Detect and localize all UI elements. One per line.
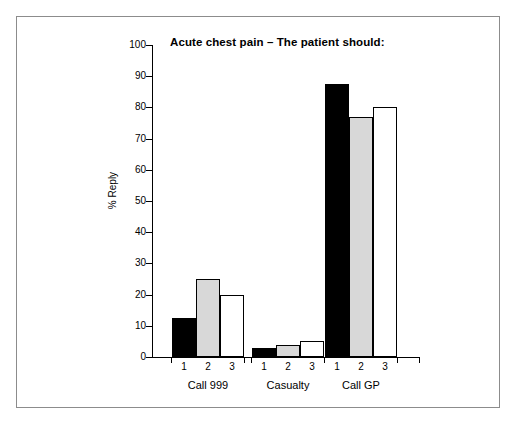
y-axis-tick	[146, 201, 152, 202]
bar-call-gp-1	[325, 84, 349, 357]
y-axis-tick	[146, 263, 152, 264]
y-axis-tick-label: 30	[106, 258, 146, 268]
bar-index-label: 1	[172, 362, 196, 372]
y-axis-title: % Reply	[107, 172, 118, 209]
y-axis-tick	[146, 45, 152, 46]
y-axis-tick	[146, 357, 152, 358]
y-axis-tick	[146, 295, 152, 296]
bar-index-label: 3	[300, 362, 324, 372]
plot-area: 0102030405060708090100 % Reply 123Call 9…	[0, 0, 517, 426]
y-axis-tick-label: 0	[106, 352, 146, 362]
y-axis-tick-label: 10	[106, 321, 146, 331]
bar-casualty-3	[300, 341, 324, 357]
bar-index-label: 2	[349, 362, 373, 372]
y-axis-tick	[146, 76, 152, 77]
y-axis-tick	[146, 232, 152, 233]
y-axis-tick	[146, 139, 152, 140]
group-label-call-gp: Call GP	[306, 380, 416, 391]
bar-call-gp-2	[349, 117, 373, 357]
y-axis-tick-label: 20	[106, 290, 146, 300]
bar-call-999-2	[196, 279, 220, 357]
y-axis-tick-label: 70	[106, 134, 146, 144]
bar-call-999-1	[172, 318, 196, 357]
x-axis-tick	[419, 357, 420, 363]
y-axis-tick-label: 40	[106, 227, 146, 237]
bar-casualty-2	[276, 345, 300, 357]
bar-call-gp-3	[373, 107, 397, 357]
bar-index-label: 1	[325, 362, 349, 372]
bar-call-999-3	[220, 295, 244, 357]
y-axis-tick	[146, 170, 152, 171]
y-axis-line	[152, 45, 153, 358]
bar-index-label: 1	[252, 362, 276, 372]
bar-casualty-1	[252, 348, 276, 357]
x-axis-line	[152, 357, 420, 358]
bar-index-label: 2	[196, 362, 220, 372]
y-axis-tick-label: 100	[106, 40, 146, 50]
bar-index-label: 3	[373, 362, 397, 372]
x-axis-tick	[244, 357, 245, 363]
y-axis-tick	[146, 326, 152, 327]
y-axis-tick-label: 80	[106, 102, 146, 112]
y-axis-tick	[146, 107, 152, 108]
y-axis-tick-label: 90	[106, 71, 146, 81]
bar-index-label: 3	[220, 362, 244, 372]
x-axis-tick	[397, 357, 398, 363]
bar-index-label: 2	[276, 362, 300, 372]
